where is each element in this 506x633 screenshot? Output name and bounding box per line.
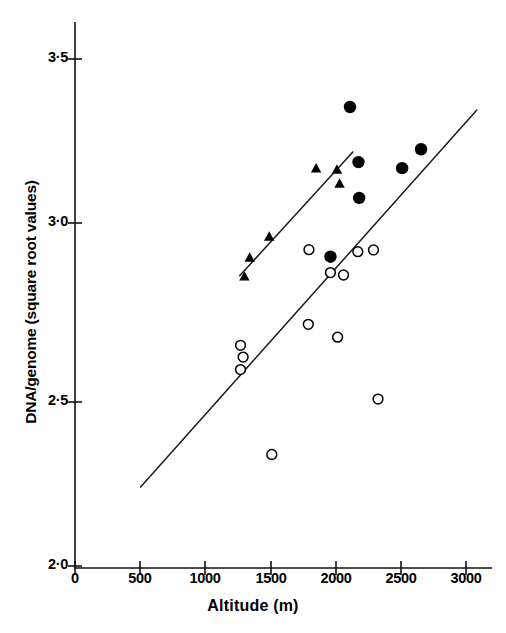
- data-markers-group: [236, 101, 428, 460]
- plot-canvas: [0, 0, 506, 633]
- data-point-filled-circle: [324, 251, 336, 263]
- data-point-open-circle: [267, 450, 277, 460]
- data-point-open-circle: [238, 352, 248, 362]
- data-point-open-circle: [333, 332, 343, 342]
- data-point-filled-circle: [353, 192, 365, 204]
- lower-regression-line: [140, 110, 477, 488]
- x-axis-title: Altitude (m): [0, 597, 506, 615]
- data-point-filled-triangle: [264, 231, 274, 240]
- x-tick-3000: 3000: [436, 570, 496, 586]
- x-tick-1500: 1500: [241, 570, 301, 586]
- data-point-filled-circle: [344, 101, 356, 113]
- x-tick-0: 0: [45, 570, 105, 586]
- data-point-open-circle: [236, 340, 246, 350]
- data-point-open-circle: [303, 319, 313, 329]
- series-filled-triangles: [239, 163, 345, 281]
- data-point-filled-circle: [415, 143, 427, 155]
- data-point-filled-circle: [352, 156, 364, 168]
- x-tick-1000: 1000: [175, 570, 235, 586]
- data-point-open-circle: [353, 247, 363, 257]
- data-point-open-circle: [369, 245, 379, 255]
- x-tick-500: 500: [110, 570, 170, 586]
- x-tick-2500: 2500: [371, 570, 431, 586]
- data-point-filled-triangle: [334, 178, 344, 187]
- data-point-filled-triangle: [311, 163, 321, 172]
- trend-lines-group: [140, 110, 477, 488]
- data-point-open-circle: [236, 365, 246, 375]
- data-point-open-circle: [304, 245, 314, 255]
- x-tick-2000: 2000: [306, 570, 366, 586]
- data-point-filled-triangle: [244, 252, 254, 261]
- scatter-plot-figure: DNA/genome (square root values) Altitude…: [0, 0, 506, 633]
- data-point-open-circle: [373, 394, 383, 404]
- data-point-filled-circle: [396, 162, 408, 174]
- y-axis-title: DNA/genome (square root values): [22, 102, 40, 502]
- data-point-open-circle: [339, 270, 349, 280]
- data-point-open-circle: [326, 268, 336, 278]
- data-point-filled-triangle: [239, 271, 249, 280]
- series-open-circles: [236, 245, 383, 460]
